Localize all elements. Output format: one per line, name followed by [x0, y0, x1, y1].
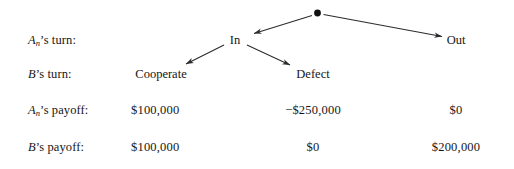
- root-decision-node: [314, 10, 321, 17]
- edge-in-to-cooperate: [186, 45, 224, 64]
- row-label-b-turn: B’s turn:: [28, 67, 72, 82]
- row-label-a-payoff: An’s payoff:: [28, 103, 88, 118]
- branch-label-cooperate: Cooperate: [135, 67, 186, 82]
- payoff-a-defect: −$250,000: [285, 103, 341, 118]
- payoff-b-out: $200,000: [432, 140, 480, 155]
- branch-label-defect: Defect: [296, 67, 329, 82]
- row-label-a-turn-subscript: n: [36, 38, 40, 48]
- row-label-a-payoff-symbol: A: [28, 103, 36, 117]
- row-label-b-turn-symbol: B: [28, 67, 36, 81]
- payoff-b-cooperate: $100,000: [131, 140, 179, 155]
- row-label-a-payoff-text: ’s payoff:: [40, 103, 88, 117]
- row-label-a-payoff-subscript: n: [36, 108, 40, 118]
- payoff-a-cooperate: $100,000: [131, 103, 179, 118]
- row-label-a-turn: An’s turn:: [28, 33, 76, 48]
- edge-root-to-out: [324, 15, 443, 37]
- row-label-a-turn-text: ’s turn:: [40, 33, 76, 47]
- payoff-b-defect: $0: [307, 140, 320, 155]
- row-label-a-turn-symbol: A: [28, 33, 36, 47]
- row-label-b-turn-text: ’s turn:: [36, 67, 72, 81]
- edge-in-to-defect: [247, 45, 290, 65]
- branch-label-in: In: [230, 33, 240, 48]
- branch-label-out: Out: [447, 33, 466, 48]
- payoff-a-out: $0: [450, 103, 463, 118]
- row-label-b-payoff: B’s payoff:: [28, 140, 84, 155]
- row-label-b-payoff-symbol: B: [28, 140, 36, 154]
- edge-root-to-in: [254, 16, 312, 34]
- game-tree-figure: An’s turn: B’s turn: An’s payoff: B’s pa…: [0, 0, 514, 169]
- row-label-b-payoff-text: ’s payoff:: [36, 140, 84, 154]
